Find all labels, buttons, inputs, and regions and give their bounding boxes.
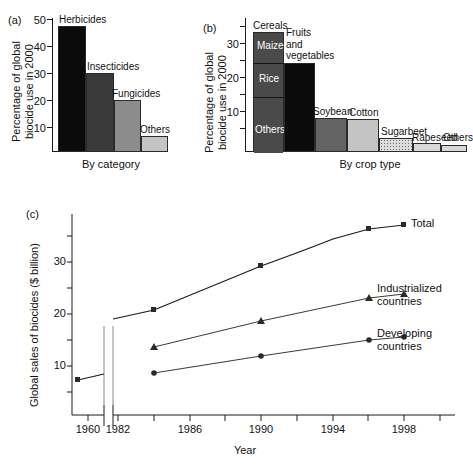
- bar-fungicides: [114, 100, 141, 152]
- bar-label-soybean: Soybean: [313, 106, 352, 117]
- panel-a-tick-50: [47, 19, 52, 20]
- bar-label-others-a: Others: [140, 124, 170, 135]
- panel-c-xtick-1982: 1982: [100, 423, 136, 435]
- series-label-developing: Developingcountries: [377, 327, 432, 353]
- series-total-segment-1960: [78, 374, 104, 380]
- bar-label-fungicides: Fungicides: [112, 88, 160, 99]
- series-total-markers: [75, 222, 406, 382]
- bar-cotton: [347, 119, 379, 152]
- segment-label-others-b: Others: [255, 124, 285, 135]
- bar-label-cereals: Cereals: [253, 20, 287, 31]
- bar-label-fruits-vegetables: Fruitsandvegetables: [286, 27, 334, 62]
- panel-c-xtick-1986: 1986: [172, 423, 208, 435]
- panel-b-ytick-10: 10: [217, 106, 239, 118]
- series-label-industrialized: Industrializedcountries: [377, 282, 442, 308]
- panel-c-xlabel: Year: [205, 444, 285, 456]
- segment-label-maize: Maize: [257, 40, 284, 51]
- panel-b-tick-30: [240, 43, 245, 44]
- panel-c: (c) Global sales of biocides ($ billion)…: [0, 200, 467, 471]
- panel-a-tick-20: [47, 100, 52, 101]
- bar-soybean: [315, 118, 347, 152]
- series-label-total: Total: [411, 217, 434, 230]
- panel-c-xtick-1994: 1994: [315, 423, 351, 435]
- panel-a-tick-10: [47, 127, 52, 128]
- panel-b-tick-15: [240, 94, 245, 95]
- panel-b-ylabel: Percentage of globalbiocide use in 2000: [203, 38, 228, 168]
- bar-fruits-vegetables: [284, 63, 315, 152]
- panel-b-tag: (b): [203, 22, 216, 34]
- panel-c-x-ticks: [88, 415, 440, 421]
- panel-c-xtick-1990: 1990: [243, 423, 279, 435]
- panel-b: (b) Percentage of globalbiocide use in 2…: [195, 0, 467, 195]
- bar-others-a: [141, 136, 168, 152]
- bar-others-b2: [441, 145, 467, 152]
- bar-label-insecticides: Insecticides: [87, 61, 139, 72]
- segment-label-rice: Rice: [259, 73, 279, 84]
- panel-a-ytick-50: 50: [24, 14, 46, 26]
- series-total-line: [113, 225, 404, 319]
- panel-a-tick-40: [47, 46, 52, 47]
- panel-a-y-axis: [52, 18, 53, 152]
- panel-b-ytick-30: 30: [217, 38, 239, 50]
- series-developing-markers: [151, 334, 407, 376]
- bar-herbicides: [58, 26, 86, 152]
- panel-a-tick-30: [47, 73, 52, 74]
- bar-label-cotton: Cotton: [349, 107, 378, 118]
- panel-a-ytick-40: 40: [24, 41, 46, 53]
- panel-b-tick-5: [240, 128, 245, 129]
- series-developing-line: [154, 337, 404, 373]
- panel-a-ytick-20: 20: [24, 95, 46, 107]
- panel-c-y-ticks: [67, 236, 72, 392]
- panel-a-xlabel: By category: [52, 158, 170, 170]
- bar-label-others-b2: Others: [443, 132, 473, 143]
- panel-a-ytick-30: 30: [24, 68, 46, 80]
- panel-b-xlabel: By crop type: [315, 158, 425, 170]
- bar-insecticides: [86, 73, 114, 152]
- panel-c-axis-break-inner: [104, 326, 113, 415]
- bar-label-herbicides: Herbicides: [59, 14, 106, 25]
- panel-a: (a) Percentage of globalbiocide use in 2…: [0, 0, 195, 195]
- bar-sugarbeet: [379, 138, 413, 152]
- panel-c-xtick-1998: 1998: [386, 423, 422, 435]
- panel-b-ytick-20: 20: [217, 72, 239, 84]
- panel-b-y-axis: [245, 18, 246, 152]
- bar-rapeseed: [413, 143, 441, 152]
- panel-b-tick-25: [240, 60, 245, 61]
- panel-b-tick-20: [240, 77, 245, 78]
- panel-a-ytick-10: 10: [24, 122, 46, 134]
- panel-b-tick-10: [240, 111, 245, 112]
- panel-b-tick-35: [240, 26, 245, 27]
